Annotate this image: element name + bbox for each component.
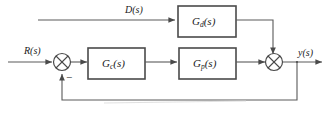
block-gd-label-tail: (s) — [204, 15, 216, 27]
block-gp-label-tail: (s) — [205, 57, 217, 69]
block-gc-label-base: G — [102, 57, 110, 69]
reference-input-label: R(s) — [24, 46, 41, 56]
block-gd-label-base: G — [192, 15, 200, 27]
block-gp-label: Gp(s) — [193, 58, 216, 69]
block-gc-label-tail: (s) — [113, 57, 125, 69]
error-junction-minus-sign: − — [66, 72, 72, 83]
disturbance-input-label: D(s) — [125, 5, 143, 15]
block-gp-label-sub: p — [201, 62, 205, 71]
block-gp-label-base: G — [193, 57, 201, 69]
output-label: y(s) — [298, 48, 313, 58]
output-summing-junction-symbol — [266, 54, 283, 71]
block-gd-label-sub: d — [200, 20, 204, 29]
block-gc-label-sub: c — [110, 62, 113, 71]
error-summing-junction-symbol — [54, 54, 71, 71]
block-gd-label: Gd(s) — [192, 16, 215, 27]
figure-baseline-rule — [104, 101, 246, 103]
block-gc-label: Gc(s) — [102, 58, 125, 69]
block-diagram-figure: D(s) R(s) y(s) − Gd(s) Gc(s) Gp(s) — [0, 0, 329, 122]
figure-caption — [150, 114, 262, 122]
diagram-canvas — [0, 0, 329, 122]
gd-to-output-junction-wire — [236, 20, 273, 54]
